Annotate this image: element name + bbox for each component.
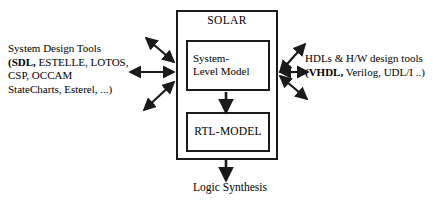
right-annotation-line1: HDLs & H/W design tools: [305, 52, 423, 64]
left-annotation-text: System Design Tools (SDL, ESTELLE, LOTOS…: [8, 42, 129, 96]
right-annotation-line2-rest: Verilog, UDL/I ..): [343, 66, 425, 78]
left-annotation-line2-rest: ESTELLE, LOTOS,: [36, 56, 129, 68]
right-annotation-line2-bold: (VHDL,: [305, 66, 343, 78]
system-level-model-line1: System-: [193, 52, 229, 64]
logic-synthesis-label: Logic Synthesis: [150, 181, 310, 193]
left-annotation-line1: System Design Tools: [8, 42, 101, 54]
left-annotation-line2-bold: (SDL,: [8, 56, 36, 68]
right-annotation-text: HDLs & H/W design tools (VHDL, Verilog, …: [305, 52, 425, 79]
diagram-canvas: SOLAR System- Level Model RTL-MODEL Syst…: [0, 0, 447, 205]
left-annotation-line3: CSP, OCCAM: [8, 69, 72, 81]
arrow-left-upper: [146, 38, 174, 62]
system-level-model-label: System- Level Model: [193, 52, 265, 78]
left-annotation-line4: StateCharts, Esterel, ...): [8, 83, 112, 95]
rtl-model-label: RTL-MODEL: [186, 125, 270, 137]
solar-title-label: SOLAR: [176, 14, 278, 26]
arrow-right-upper: [280, 44, 305, 72]
arrow-left-lower: [144, 82, 174, 110]
system-level-model-line2: Level Model: [193, 65, 250, 77]
arrow-right-lower: [280, 76, 307, 99]
